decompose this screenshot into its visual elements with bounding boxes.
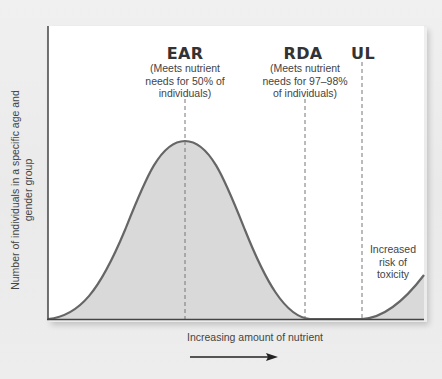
ul-title: UL [351,44,375,63]
x-axis-label: Increasing amount of nutrient [187,331,323,343]
toxicity-note: Increased risk of toxicity [370,243,416,281]
y-axis-label: Number of individuals in a specific age … [9,80,35,300]
distribution-chart [0,0,442,379]
rda-description: (Meets nutrient needs for 97–98% of indi… [262,62,347,100]
ear-description: (Meets nutrient needs for 50% of individ… [145,62,224,100]
rda-title: RDA [284,44,323,63]
ear-title: EAR [167,44,204,63]
